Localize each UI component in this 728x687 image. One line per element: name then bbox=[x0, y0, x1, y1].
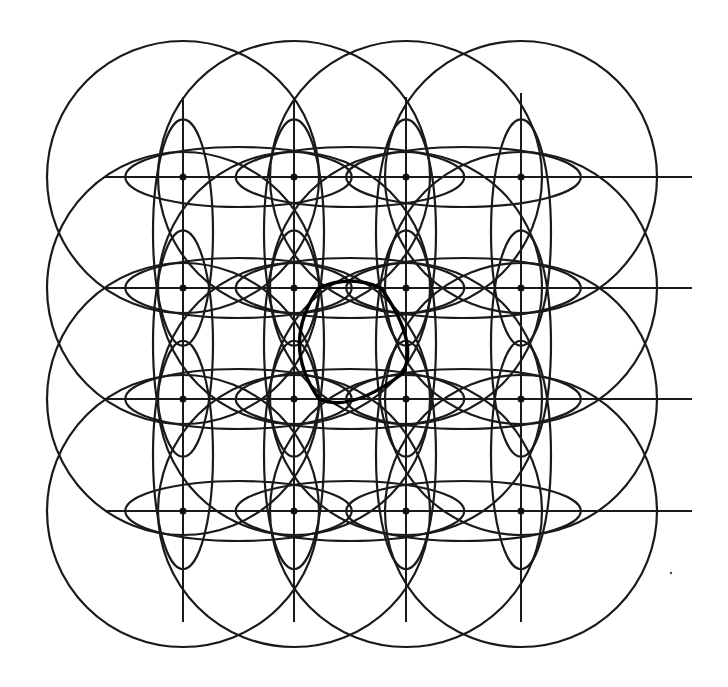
grid-point bbox=[518, 285, 525, 292]
circle-layer bbox=[47, 41, 657, 647]
grid-point bbox=[518, 396, 525, 403]
grid-point bbox=[403, 285, 410, 292]
grid-point bbox=[518, 508, 525, 515]
grid-point bbox=[291, 508, 298, 515]
stray-ink-dot bbox=[670, 572, 672, 574]
grid-point bbox=[291, 285, 298, 292]
grid-point bbox=[518, 174, 525, 181]
circle-grid-diagram bbox=[0, 0, 728, 687]
grid-point bbox=[403, 174, 410, 181]
grid-point bbox=[180, 396, 187, 403]
grid-point bbox=[180, 285, 187, 292]
grid-point bbox=[403, 508, 410, 515]
grid-point bbox=[180, 508, 187, 515]
vertical-construction-lines bbox=[183, 93, 521, 622]
grid-point bbox=[403, 396, 410, 403]
grid-point bbox=[291, 396, 298, 403]
grid-intersection-points bbox=[180, 174, 525, 515]
grid-point bbox=[291, 174, 298, 181]
grid-point bbox=[180, 174, 187, 181]
